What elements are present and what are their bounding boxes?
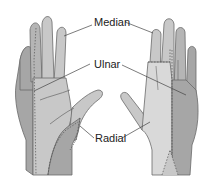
radial-leader-left xyxy=(80,126,94,138)
hand-nerve-diagram: Median Ulnar Radial xyxy=(0,0,216,185)
palmar-middle-finger xyxy=(42,17,54,80)
label-median: Median xyxy=(94,16,130,28)
median-leader-left xyxy=(64,25,92,36)
label-radial: Radial xyxy=(95,132,126,144)
palmar-index-finger xyxy=(54,27,66,82)
dorsal-hand xyxy=(121,19,198,175)
label-ulnar: Ulnar xyxy=(94,58,121,70)
palmar-hand xyxy=(15,17,102,175)
